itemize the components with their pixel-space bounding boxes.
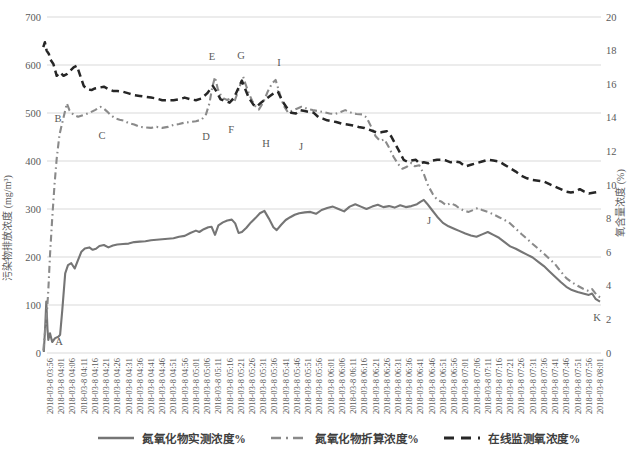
annotation-letter: E <box>209 51 215 62</box>
legend-item-2: 氮氧化物折算浓度% <box>270 430 419 446</box>
x-axis-tick-label: 2018-03-8 06:41 <box>416 358 425 414</box>
legend-label: 在线监测氧浓度% <box>488 430 581 446</box>
x-axis-tick-label: 2018-03-8 06:21 <box>372 358 381 414</box>
x-axis-tick-label: 2018-03-8 05:36 <box>270 358 279 414</box>
legend-item-1: 氮氧化物实测浓度% <box>97 430 246 446</box>
x-axis-tick-label: 2018-03-8 05:16 <box>226 358 235 414</box>
right-axis-tick-label: 12 <box>606 146 617 157</box>
x-axis-tick-label: 2018-03-8 04:41 <box>147 358 156 414</box>
x-axis-tick-label: 2018-03-8 07:26 <box>517 358 526 414</box>
x-axis-tick-label: 2018-03-8 06:16 <box>360 358 369 414</box>
left-axis-tick-label: 400 <box>25 156 41 167</box>
x-axis-tick-label: 2018-03-8 07:01 <box>461 358 470 414</box>
x-axis-tick-label: 2018-03-8 07:11 <box>484 358 493 414</box>
x-axis-tick-label: 2018-03-8 05:11 <box>214 358 223 414</box>
x-axis-tick-label: 2018-03-8 06:06 <box>338 358 347 414</box>
annotation-letter: F <box>228 124 234 135</box>
x-axis-tick-label: 2018-03-8 07:41 <box>551 358 560 414</box>
x-axis-tick-label: 2018-03-8 04:21 <box>102 358 111 414</box>
x-axis-tick-label: 2018-03-8 07:16 <box>495 358 504 414</box>
left-axis-tick-label: 600 <box>25 60 41 71</box>
line-chart-plot: 0100200300400500600700024681012141618202… <box>0 0 632 432</box>
x-axis-tick-label: 2018-03-8 04:56 <box>181 358 190 414</box>
annotation-letter: J <box>299 141 303 152</box>
legend-line-swatch <box>443 433 481 443</box>
left-axis-tick-label: 0 <box>36 348 41 359</box>
annotation-letter: K <box>593 312 601 323</box>
right-axis-tick-label: 4 <box>606 280 612 291</box>
x-axis-tick-label: 2018-03-8 05:01 <box>192 358 201 414</box>
x-axis-tick-label: 2018-03-8 05:31 <box>259 358 268 414</box>
left-axis-tick-label: 300 <box>25 204 41 215</box>
annotation-letter: D <box>202 131 210 142</box>
x-axis-tick-label: 2018-03-8 07:56 <box>585 358 594 414</box>
legend-line-swatch <box>97 433 135 443</box>
left-axis-tick-label: 500 <box>25 108 41 119</box>
x-axis-tick-label: 2018-03-8 04:01 <box>57 358 66 414</box>
x-axis-tick-label: 2018-03-8 07:21 <box>506 358 515 414</box>
legend-label: 氮氧化物实测浓度% <box>142 430 246 446</box>
x-axis-tick-label: 2018-03-8 04:31 <box>125 358 134 414</box>
annotation-letter: A <box>55 336 63 347</box>
x-axis-tick-label: 2018-03-8 07:46 <box>562 358 571 414</box>
right-axis-tick-label: 14 <box>606 112 617 123</box>
right-axis-tick-label: 16 <box>606 79 617 90</box>
legend-item-3: 在线监测氧浓度% <box>443 430 581 446</box>
x-axis-tick-label: 2018-03-8 04:46 <box>158 358 167 414</box>
x-axis-tick-label: 2018-03-8 06:51 <box>439 358 448 414</box>
series-line-2 <box>43 77 600 351</box>
x-axis-tick-label: 2018-03-8 06:46 <box>428 358 437 414</box>
x-axis-tick-label: 2018-03-8 06:11 <box>349 358 358 414</box>
left-axis-tick-label: 100 <box>25 300 41 311</box>
right-axis-tick-label: 0 <box>606 348 611 359</box>
x-axis-tick-label: 2018-03-8 04:16 <box>91 358 100 414</box>
series-line-1 <box>44 200 600 352</box>
x-axis-tick-label: 2018-03-8 05:26 <box>248 358 257 414</box>
chart-legend: 氮氧化物实测浓度%氮氧化物折算浓度%在线监测氧浓度% <box>0 430 632 446</box>
x-axis-tick-label: 2018-03-8 04:06 <box>68 358 77 414</box>
right-axis-title: 氧含量浓度 (%) <box>614 169 627 237</box>
legend-line-swatch <box>270 433 308 443</box>
x-axis-tick-label: 2018-03-8 07:31 <box>529 358 538 414</box>
x-axis-tick-label: 2018-03-8 08:01 <box>596 358 605 414</box>
annotation-letter: J <box>427 215 431 226</box>
x-axis-tick-label: 2018-03-8 04:51 <box>169 358 178 414</box>
x-axis-tick-label: 2018-03-8 07:51 <box>574 358 583 414</box>
chart-container: 0100200300400500600700024681012141618202… <box>0 0 632 460</box>
x-axis-tick-label: 2018-03-8 06:36 <box>405 358 414 414</box>
right-axis-tick-label: 8 <box>606 213 611 224</box>
right-axis-tick-label: 20 <box>606 12 617 23</box>
x-axis-tick-label: 2018-03-8 05:06 <box>203 358 212 414</box>
annotation-letter: I <box>277 57 281 68</box>
x-axis-tick-label: 2018-03-8 07:36 <box>540 358 549 414</box>
x-axis-tick-label: 2018-03-8 06:26 <box>383 358 392 414</box>
x-axis-tick-label: 2018-03-8 05:51 <box>304 358 313 414</box>
x-axis-tick-label: 2018-03-8 05:46 <box>293 358 302 414</box>
annotation-letter: H <box>262 138 270 149</box>
x-axis-tick-label: 2018-03-8 06:01 <box>327 358 336 414</box>
annotation-letter: C <box>98 130 105 141</box>
x-axis-tick-label: 2018-03-8 07:06 <box>473 358 482 414</box>
left-axis-tick-label: 200 <box>25 252 41 263</box>
x-axis-tick-label: 2018-03-8 03:56 <box>46 358 55 414</box>
x-axis-tick-label: 2018-03-8 06:56 <box>450 358 459 414</box>
x-axis-tick-label: 2018-03-8 05:21 <box>237 358 246 414</box>
x-axis-tick-label: 2018-03-8 06:31 <box>394 358 403 414</box>
right-axis-tick-label: 2 <box>606 314 611 325</box>
annotation-letter: B <box>54 113 61 124</box>
x-axis-tick-label: 2018-03-8 05:56 <box>315 358 324 414</box>
annotation-letter: G <box>237 50 245 61</box>
right-axis-tick-label: 6 <box>606 247 611 258</box>
right-axis-tick-label: 18 <box>606 45 617 56</box>
left-axis-title: 污染物排放浓度 (mg/m³) <box>1 175 14 281</box>
x-axis-tick-label: 2018-03-8 04:26 <box>113 358 122 414</box>
x-axis-tick-label: 2018-03-8 04:11 <box>80 358 89 414</box>
x-axis-tick-label: 2018-03-8 04:36 <box>136 358 145 414</box>
x-axis-tick-label: 2018-03-8 05:41 <box>282 358 291 414</box>
left-axis-tick-label: 700 <box>25 12 41 23</box>
legend-label: 氮氧化物折算浓度% <box>315 430 419 446</box>
